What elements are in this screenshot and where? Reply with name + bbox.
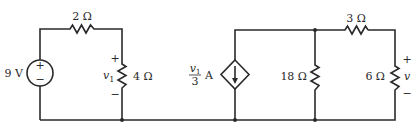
resistor-4ohm-label: 4 Ω (133, 70, 153, 83)
resistor-3ohm-icon (343, 26, 368, 34)
resistor-3ohm-label: 3 Ω (346, 12, 366, 25)
resistor-2ohm-label: 2 Ω (72, 10, 92, 23)
v-minus-sign: − (402, 87, 411, 100)
wire-3ohm-right (368, 30, 395, 64)
svg-text:v1: v1 (190, 62, 201, 76)
svg-text:A: A (204, 69, 214, 82)
dependent-current-source-icon (221, 60, 249, 89)
node-dot (120, 118, 124, 122)
voltage-source-label: 9 V (5, 67, 24, 80)
source-minus-sign: − (35, 73, 44, 86)
left-loop: + − 9 V 2 Ω 4 Ω + − v1 (5, 10, 153, 120)
voltage-source-icon: + − (27, 59, 53, 86)
svg-text:3: 3 (192, 75, 199, 88)
wire-left-top (40, 29, 68, 60)
resistor-6ohm-label: 6 Ω (365, 70, 385, 83)
right-network: v1 3 A 18 Ω 3 Ω 6 Ω + v − (189, 12, 412, 120)
source-plus-sign: + (35, 59, 44, 72)
wire-right-top (235, 30, 343, 60)
v-plus-sign: + (402, 53, 411, 66)
v1-plus-sign: + (110, 52, 119, 65)
resistor-18ohm-icon (311, 63, 319, 92)
resistor-4ohm-icon (118, 62, 126, 90)
circuit-diagram: + − 9 V 2 Ω 4 Ω + − v1 v1 (0, 0, 415, 132)
wire-bottom-rail (40, 92, 395, 120)
v1-label: v1 (103, 69, 114, 84)
resistor-6ohm-icon (391, 64, 399, 92)
v1-minus-sign: − (110, 88, 119, 101)
resistor-2ohm-icon (68, 25, 96, 33)
v-label: v (404, 70, 411, 83)
node-dot (313, 28, 317, 32)
dependent-source-label: v1 3 A (189, 62, 214, 88)
resistor-18ohm-label: 18 Ω (280, 70, 307, 83)
